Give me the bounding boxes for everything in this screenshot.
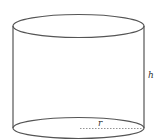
top-ellipse [13, 15, 144, 38]
cylinder-diagram: h r [0, 0, 164, 140]
bottom-ellipse [13, 118, 144, 139]
radius-label: r [98, 118, 103, 128]
height-label: h [148, 70, 154, 80]
